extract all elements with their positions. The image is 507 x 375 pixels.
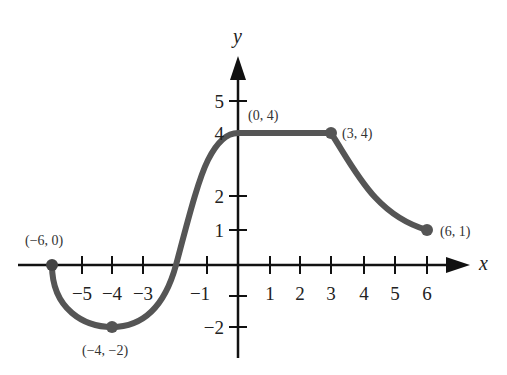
point-3-4 [325, 127, 337, 139]
point-neg6-0 [46, 259, 58, 271]
y-axis-arrow-icon [230, 56, 246, 80]
x-tick-label: 4 [359, 283, 369, 304]
point-label: (6, 1) [440, 224, 471, 240]
point-label: (−4, −2) [82, 343, 128, 359]
x-tick-label: −1 [190, 283, 210, 304]
x-tick-label: −5 [72, 283, 92, 304]
x-axis-arrow-icon [446, 257, 470, 273]
y-tick-label: −2 [204, 317, 224, 338]
y-axis-label: y [231, 25, 242, 48]
x-tick-label: 5 [390, 283, 400, 304]
y-axis [229, 56, 247, 358]
x-tick-label: −3 [133, 283, 153, 304]
point-label: (3, 4) [342, 126, 373, 142]
y-tick-label: 2 [215, 186, 225, 207]
point-6-1 [421, 224, 433, 236]
x-axis-label: x [478, 252, 488, 274]
point-label: (−6, 0) [25, 233, 64, 249]
point-neg4-neg2 [106, 321, 118, 333]
point-label: (0, 4) [248, 108, 279, 124]
y-tick-label: 4 [215, 123, 225, 144]
x-tick-label: 6 [422, 283, 432, 304]
y-tick-label: 5 [215, 91, 225, 112]
y-tick-label: 1 [215, 220, 225, 241]
x-tick-label: 3 [326, 283, 336, 304]
x-tick-label: 1 [265, 283, 275, 304]
x-tick-label: −4 [102, 283, 123, 304]
x-axis [18, 256, 470, 274]
function-graph: −5 −4 −3 −1 1 2 3 4 5 6 5 4 2 1 −2 x y (… [0, 0, 507, 375]
x-tick-label: 2 [295, 283, 305, 304]
